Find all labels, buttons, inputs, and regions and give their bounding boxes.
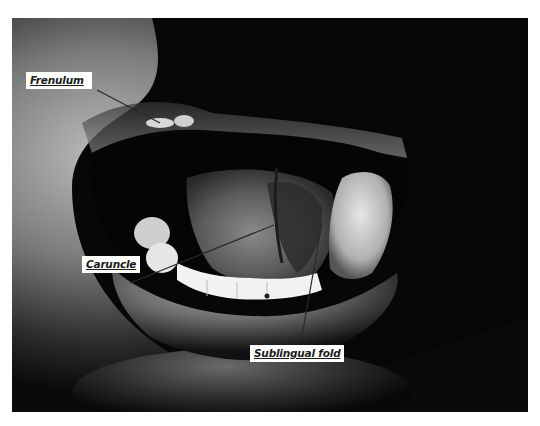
label-frenulum: Frenulum: [26, 72, 92, 89]
mouth-photograph: Frenulum Caruncle Sublingual fold: [12, 18, 528, 412]
label-text: Frenulum: [30, 74, 84, 86]
label-caruncle: Caruncle: [82, 256, 140, 273]
label-text: Caruncle: [86, 258, 136, 270]
label-sublingual-fold: Sublingual fold: [250, 345, 344, 362]
label-text: Sublingual fold: [254, 347, 340, 359]
